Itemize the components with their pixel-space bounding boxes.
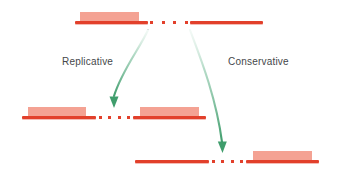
- gap-dot: [185, 21, 188, 24]
- gap-dot: [127, 116, 130, 119]
- gap-dot: [231, 160, 234, 163]
- gap-dot: [162, 21, 165, 24]
- dna-strand-segment: [246, 160, 319, 163]
- conservative-arrow: [190, 30, 227, 153]
- transposition-diagram: Replicative Conservative: [0, 0, 341, 174]
- dna-strand-segment: [22, 116, 96, 119]
- gap-dot: [108, 116, 111, 119]
- dna-strand-segment: [75, 21, 148, 24]
- conservative-label: Conservative: [228, 56, 289, 67]
- arrow-layer: [0, 0, 341, 174]
- gap-dot: [173, 21, 176, 24]
- dna-strand-segment: [190, 21, 263, 24]
- gap-dot: [212, 160, 215, 163]
- dna-strand-segment: [135, 160, 209, 163]
- strand-gap-dots: [212, 160, 243, 163]
- replicative-arrow: [110, 30, 149, 108]
- gap-dot: [99, 116, 102, 119]
- dna-strand-segment: [133, 116, 206, 119]
- gap-dot: [150, 21, 153, 24]
- gap-dot: [118, 116, 121, 119]
- gap-dot: [221, 160, 224, 163]
- transposon-block: [140, 107, 199, 116]
- strand-gap-dots: [150, 21, 188, 24]
- strand-gap-dots: [99, 116, 130, 119]
- transposon-block: [253, 151, 312, 160]
- transposon-block: [80, 12, 139, 21]
- gap-dot: [240, 160, 243, 163]
- transposon-block: [28, 107, 86, 116]
- replicative-label: Replicative: [62, 56, 113, 67]
